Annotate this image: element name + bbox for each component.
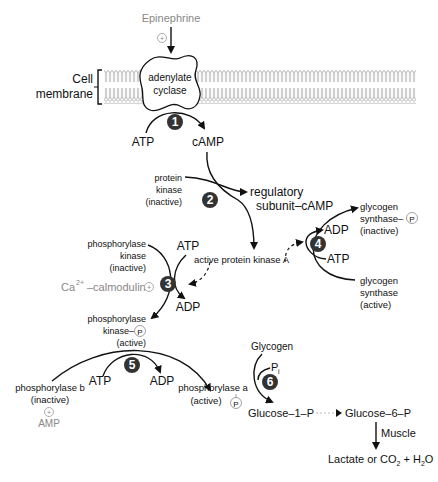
phk-inactive-line1: phosphorylase bbox=[87, 239, 146, 249]
protein-kinase-inactive-line1: protein bbox=[154, 173, 182, 183]
epinephrine-label: Epinephrine bbox=[142, 12, 201, 24]
pi-subscript: i bbox=[278, 368, 280, 375]
phk-active-line2: kinase– bbox=[103, 326, 134, 336]
glycogen-cascade-diagram: Cell membrane Epinephrine + adenylate cy… bbox=[0, 0, 438, 482]
gs-active-line1: glycogen bbox=[360, 275, 398, 286]
glycogen-label: Glycogen bbox=[251, 341, 293, 352]
phos-a-line2: (active) bbox=[190, 395, 221, 406]
gs-active-line3: (active) bbox=[360, 299, 391, 310]
calmodulin-text: –calmodulin bbox=[87, 281, 146, 293]
pk-to-regulatory-arrow bbox=[185, 177, 246, 192]
glucose-1-p: Glucose–1–P bbox=[248, 407, 314, 419]
protein-kinase-inactive-line3: (inactive) bbox=[145, 197, 182, 207]
phk-inactive-line3: (inactive) bbox=[109, 263, 146, 273]
amp-plus: + bbox=[47, 409, 51, 416]
amp-label: AMP bbox=[38, 418, 60, 429]
muscle-label: Muscle bbox=[381, 427, 416, 439]
calmodulin-charge: 2+ bbox=[76, 279, 84, 286]
glucose-6-p: Glucose–6–P bbox=[345, 407, 411, 419]
phk-active-line3: (active) bbox=[116, 338, 146, 348]
step-5-number: 5 bbox=[129, 358, 136, 372]
step4-atp: ATP bbox=[327, 252, 349, 266]
step-4-number: 4 bbox=[315, 237, 322, 251]
gs-inactive-line3: (inactive) bbox=[360, 225, 399, 236]
calmodulin-ca: Ca bbox=[61, 281, 76, 293]
pka-to-step3-dashed-arrow bbox=[190, 262, 210, 284]
gs-inactive-line2: synthase– bbox=[360, 213, 404, 224]
regulatory-subunit-line1: regulatory bbox=[250, 185, 303, 199]
step-3-number: 3 bbox=[165, 277, 172, 291]
adenylate-cyclase-shape bbox=[140, 56, 200, 111]
end-products: Lactate or CO2 + H2O bbox=[328, 453, 434, 467]
step5-adp: ADP bbox=[150, 374, 175, 388]
phos-a-line1: phosphorylase a bbox=[178, 382, 248, 393]
regulatory-subunit-line2: subunit–cAMP bbox=[256, 199, 333, 213]
step-1-number: 1 bbox=[172, 115, 179, 129]
step-6-number: 6 bbox=[267, 375, 274, 389]
phk-phosphate-label: P bbox=[137, 328, 142, 337]
step4-adp: ADP bbox=[324, 223, 349, 237]
phk-active-line1: phosphorylase bbox=[87, 314, 146, 324]
active-protein-kinase-a: active protein kinase A bbox=[194, 254, 290, 265]
adenylate-cyclase-line2: cyclase bbox=[153, 85, 187, 96]
diagram-canvas: Cell membrane Epinephrine + adenylate cy… bbox=[0, 0, 438, 482]
atp-to-adp-step3-arrow bbox=[174, 255, 186, 298]
step3-atp: ATP bbox=[177, 239, 199, 253]
protein-kinase-inactive-line2: kinase bbox=[156, 185, 182, 195]
step-2-number: 2 bbox=[207, 193, 214, 207]
phos-a-phosphate-label: P bbox=[233, 400, 238, 409]
phos-b-line1: phosphorylase b bbox=[15, 382, 85, 393]
calmodulin-plus: + bbox=[147, 284, 151, 291]
gs-inactive-line1: glycogen bbox=[360, 201, 398, 212]
adenylate-cyclase-line1: adenylate bbox=[148, 72, 192, 83]
step1-atp: ATP bbox=[132, 135, 154, 149]
phos-b-line2: (inactive) bbox=[31, 394, 70, 405]
step3-adp: ADP bbox=[176, 300, 201, 314]
gs-phosphate-label: P bbox=[409, 215, 414, 224]
membrane-label-line2: membrane bbox=[36, 87, 94, 101]
phk-inactive-line2: kinase bbox=[120, 251, 146, 261]
epinephrine-plus: + bbox=[160, 35, 164, 42]
membrane-label-line1: Cell bbox=[72, 72, 93, 86]
gs-active-line2: synthase bbox=[360, 287, 398, 298]
step1-camp: cAMP bbox=[192, 135, 224, 149]
step5-atp: ATP bbox=[89, 374, 111, 388]
